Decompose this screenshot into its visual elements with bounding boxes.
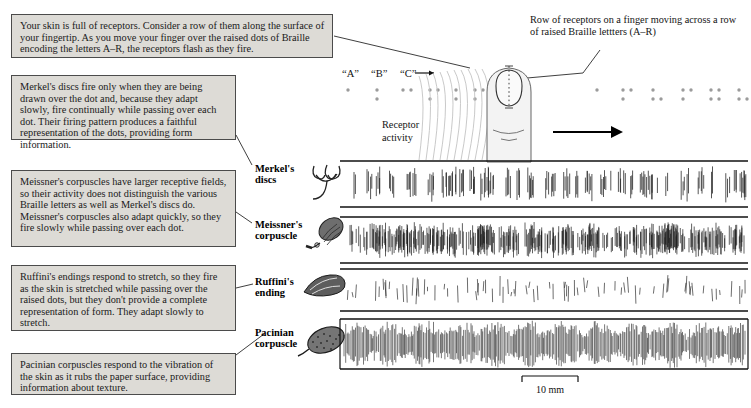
braille-dots-left: [346, 88, 510, 100]
spike-panel-meissner: [340, 216, 748, 264]
receptor-label-meissner-line1: Meissner's: [255, 219, 302, 230]
finger-direction-arrow: [553, 126, 623, 138]
scale-bar-label: 10 mm: [500, 384, 600, 395]
annotation-row-of-receptors-text: Row of receptors on a finger moving acro…: [530, 14, 736, 37]
receptor-label-pacinian: Pacinian corpuscle: [255, 327, 297, 350]
spike-panel-ruffini: [340, 268, 748, 312]
receptor-label-ruffini: Ruffini's ending: [255, 276, 294, 299]
receptor-label-ruffini-line2: ending: [255, 287, 294, 298]
annotation-row-of-receptors: Row of receptors on a finger moving acro…: [530, 14, 745, 38]
leader-meissner: [236, 212, 252, 223]
receptor-label-pacinian-line2: corpuscle: [255, 338, 297, 349]
braille-direction-arrow-small: [415, 70, 434, 75]
receptor-label-ruffini-line1: Ruffini's: [255, 276, 294, 287]
spike-panel-merkel: [340, 160, 748, 208]
scale-bar: [520, 374, 580, 384]
finger-illustration: [487, 66, 531, 162]
braille-dots-right: [595, 88, 748, 100]
receptor-label-merkel-line2: discs: [255, 174, 294, 185]
spike-panel-pacinian: [340, 318, 748, 370]
finger-braille-scene: [335, 62, 751, 162]
leader-merkel: [236, 135, 252, 165]
receptor-label-meissner: Meissner's corpuscle: [255, 219, 302, 242]
annotation-receptor-activity: Receptor activity: [382, 118, 452, 144]
scale-bar-label-text: 10 mm: [536, 384, 564, 395]
receptor-label-merkel: Merkel's discs: [255, 163, 294, 186]
annotation-receptor-activity-text: Receptor activity: [382, 119, 419, 143]
figure-root: Your skin is full of receptors. Consider…: [0, 0, 751, 408]
leader-ruffini: [236, 284, 253, 288]
receptor-label-meissner-line2: corpuscle: [255, 230, 302, 241]
receptor-label-merkel-line1: Merkel's: [255, 163, 294, 174]
receptor-label-pacinian-line1: Pacinian: [255, 327, 297, 338]
finger-motion-streaks: [419, 69, 489, 160]
